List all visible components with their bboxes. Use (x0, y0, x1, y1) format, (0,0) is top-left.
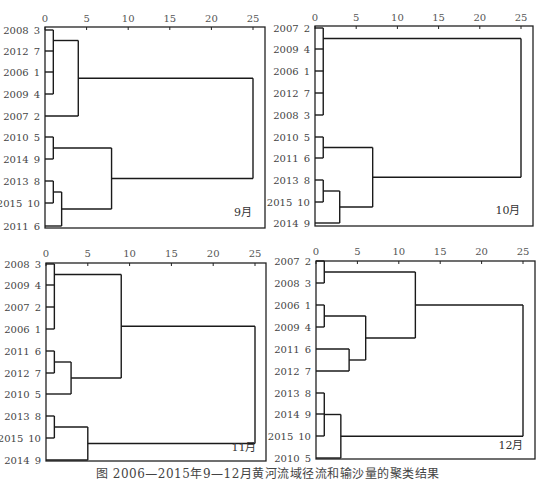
axis-tick-label: 25 (515, 12, 528, 23)
leaf-label: 2015 10 (267, 197, 310, 208)
leaf-label: 2014 9 (273, 218, 310, 229)
leaf-label: 2010 5 (273, 132, 310, 143)
leaf-label: 2006 1 (4, 324, 41, 335)
leaf-label: 2006 1 (3, 67, 40, 78)
leaf-label: 2011 6 (273, 153, 310, 164)
panel-title: 9月 (234, 206, 252, 219)
leaf-label: 2014 9 (4, 455, 41, 466)
leaf-label: 2013 8 (274, 388, 311, 399)
axis-tick-label: 5 (83, 13, 89, 24)
leaf-label: 2011 6 (274, 344, 311, 355)
axis-tick-label: 15 (434, 246, 447, 257)
leaf-label: 2012 7 (274, 366, 311, 377)
leaf-label: 2010 5 (3, 132, 40, 143)
axis-tick-label: 0 (313, 246, 319, 257)
leaf-label: 2010 5 (274, 453, 311, 464)
leaf-label: 2012 7 (273, 88, 310, 99)
axis-tick-label: 20 (475, 246, 488, 257)
leaf-label: 2007 2 (3, 111, 40, 122)
leaf-label: 2014 9 (274, 409, 311, 420)
leaf-label: 2012 7 (4, 368, 41, 379)
figure-caption: 图 2006—2015年9—12月黄河流域径流和输沙量的聚类结果 (96, 464, 440, 481)
axis-tick-label: 0 (42, 13, 48, 24)
leaf-label: 2006 1 (274, 300, 311, 311)
leaf-label: 2008 3 (274, 278, 311, 289)
axis-tick-label: 5 (354, 246, 360, 257)
plot-frame (315, 26, 533, 226)
axis-tick-label: 20 (473, 12, 486, 23)
leaf-label: 2007 2 (4, 302, 41, 313)
axis-tick-label: 15 (432, 12, 445, 23)
leaf-label: 2013 8 (273, 175, 310, 186)
leaf-label: 2009 4 (273, 44, 310, 55)
panel-title: 10月 (496, 204, 521, 217)
leaf-label: 2009 4 (274, 322, 311, 333)
axis-tick-label: 15 (163, 13, 176, 24)
leaf-label: 2015 10 (268, 431, 311, 442)
axis-tick-label: 25 (247, 13, 260, 24)
axis-tick-label: 5 (85, 248, 91, 259)
axis-tick-label: 20 (205, 13, 218, 24)
axis-tick-label: 25 (517, 246, 530, 257)
leaf-label: 2008 3 (273, 110, 310, 121)
axis-tick-label: 10 (122, 13, 135, 24)
panel-title: 11月 (232, 441, 257, 454)
dendrogram-panel-1: 05101520252008 32012 72006 12009 42007 2… (0, 13, 265, 232)
dendrogram-panel-2: 05101520252007 22009 42006 12012 72008 3… (267, 12, 533, 229)
leaf-label: 2006 1 (273, 66, 310, 77)
leaf-label: 2008 3 (4, 259, 41, 270)
dendrogram-panel-3: 05101520252008 32009 42007 22006 12011 6… (0, 248, 266, 466)
leaf-label: 2011 6 (3, 221, 40, 232)
leaf-label: 2013 8 (4, 411, 41, 422)
axis-tick-label: 5 (353, 12, 359, 23)
leaf-label: 2010 5 (4, 389, 41, 400)
axis-tick-label: 20 (207, 248, 220, 259)
axis-tick-label: 0 (43, 248, 49, 259)
dendrogram-panel-4: 05101520252007 22008 32006 12009 42011 6… (268, 246, 535, 464)
axis-tick-label: 10 (391, 12, 404, 23)
axis-tick-label: 10 (123, 248, 136, 259)
axis-tick-label: 25 (249, 248, 262, 259)
leaf-label: 2014 9 (3, 154, 40, 165)
axis-tick-label: 10 (392, 246, 405, 257)
leaf-label: 2007 2 (273, 23, 310, 34)
axis-tick-label: 15 (165, 248, 178, 259)
leaf-label: 2015 10 (0, 433, 41, 444)
leaf-label: 2007 2 (274, 256, 311, 267)
leaf-label: 2009 4 (4, 280, 41, 291)
plot-frame (46, 263, 266, 461)
leaf-label: 2008 3 (3, 25, 40, 36)
leaf-label: 2015 10 (0, 198, 40, 209)
panel-title: 12月 (499, 439, 524, 452)
leaf-label: 2013 8 (3, 176, 40, 187)
leaf-label: 2009 4 (3, 89, 40, 100)
leaf-label: 2012 7 (3, 46, 40, 57)
axis-tick-label: 0 (312, 12, 318, 23)
leaf-label: 2011 6 (4, 346, 41, 357)
